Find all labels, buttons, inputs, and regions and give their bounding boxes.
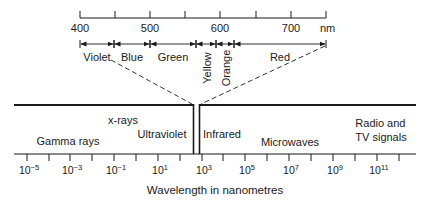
wavelength-axis-title: Wavelength in nanometres <box>147 184 283 196</box>
band-label-red: Red <box>270 51 290 63</box>
tick-label-exponent: 1 <box>164 163 168 172</box>
region-label-ultraviolet: Ultraviolet <box>138 127 187 141</box>
visible-scale-unit: nm <box>320 22 335 34</box>
tick-label-base: 10 <box>106 164 118 176</box>
wavelength-axis-tick-label: 1011 <box>369 164 388 176</box>
region-label-gamma-rays: Gamma rays <box>37 134 100 148</box>
visible-scale-tick-label: 400 <box>71 22 89 34</box>
wavelength-axis-tick-label: 109 <box>327 164 343 176</box>
band-label-yellow: Yellow <box>201 52 213 83</box>
wavelength-axis-tick-label: 101 <box>152 164 168 176</box>
tick-label-base: 10 <box>196 164 208 176</box>
tick-label-exponent: −5 <box>31 163 40 172</box>
region-label-line: Ultraviolet <box>138 127 187 141</box>
band-label-orange: Orange <box>220 50 232 87</box>
tick-label-base: 10 <box>239 164 251 176</box>
wavelength-axis-tick-label: 107 <box>283 164 299 176</box>
wavelength-axis-tick-label: 10−1 <box>106 164 126 176</box>
wavelength-axis-tick-label: 105 <box>239 164 255 176</box>
region-label-microwaves: Microwaves <box>261 135 319 149</box>
region-label-infrared: Infrared <box>203 127 241 141</box>
tick-label-exponent: 7 <box>295 163 299 172</box>
region-label-line: x-rays <box>108 113 138 127</box>
region-label-line: TV signals <box>355 130 406 144</box>
tick-label-exponent: 11 <box>381 163 389 172</box>
visible-scale-ticks <box>80 11 326 18</box>
visible-scale-tick-label: 500 <box>141 22 159 34</box>
tick-label-exponent: 3 <box>208 163 212 172</box>
tick-label-base: 10 <box>152 164 164 176</box>
tick-label-exponent: 9 <box>339 163 343 172</box>
wavelength-axis-tick-label: 10−5 <box>19 164 39 176</box>
band-label-blue: Blue <box>121 51 143 63</box>
region-label-line: Microwaves <box>261 135 319 149</box>
tick-label-exponent: −3 <box>74 163 83 172</box>
wavelength-axis-tick-label: 10−3 <box>62 164 82 176</box>
tick-label-base: 10 <box>62 164 74 176</box>
region-label-radio-and-tv-signals: Radio andTV signals <box>355 116 406 144</box>
wavelength-axis-ticks <box>27 154 399 161</box>
tick-label-base: 10 <box>369 164 381 176</box>
visible-scale-tick-label: 700 <box>282 22 300 34</box>
band-label-green: Green <box>158 51 189 63</box>
visible-scale-tick-label: 600 <box>211 22 229 34</box>
tick-label-base: 10 <box>283 164 295 176</box>
tick-label-base: 10 <box>327 164 339 176</box>
band-label-violet: Violet <box>83 51 110 63</box>
tick-label-exponent: −1 <box>118 163 127 172</box>
projection-line-left <box>111 60 192 104</box>
region-label-line: Infrared <box>203 127 241 141</box>
region-label-line: Gamma rays <box>37 134 100 148</box>
region-label-x-rays: x-rays <box>108 113 138 127</box>
visible-band-arrows <box>80 40 326 48</box>
region-label-line: Radio and <box>355 116 406 130</box>
wavelength-axis-tick-label: 103 <box>196 164 212 176</box>
tick-label-base: 10 <box>19 164 31 176</box>
tick-label-exponent: 5 <box>251 163 255 172</box>
